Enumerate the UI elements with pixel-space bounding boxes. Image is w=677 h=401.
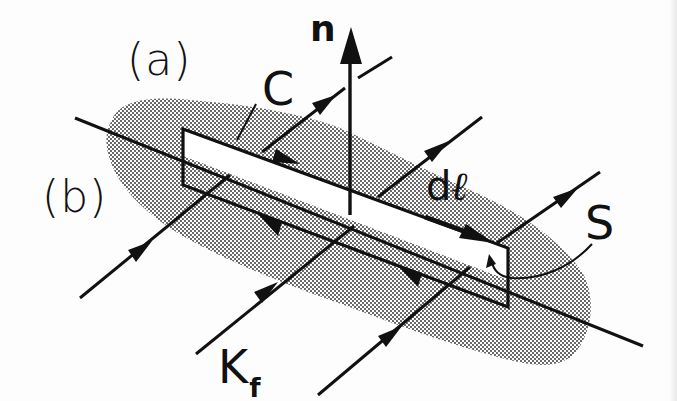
current-label-subscript: f (249, 373, 260, 401)
normal-arrowhead (340, 27, 362, 64)
current-line-3-arrow-lower (378, 326, 402, 347)
current-line-1-arrow-lower (128, 241, 152, 262)
normal-label: n (310, 11, 336, 47)
current-line-3-arrow-upper (553, 188, 578, 208)
current-line-2-arrow-lower (254, 282, 278, 303)
line-element-d: d (426, 163, 451, 209)
panel-a-label: (a) (127, 38, 191, 82)
page-edge-shadow (669, 0, 677, 401)
contour-label: C (262, 66, 294, 112)
line-element-ell: ℓ (451, 162, 468, 209)
line-element-label: dℓ (426, 166, 468, 206)
surface-label: S (585, 200, 614, 246)
current-line-1-tail (358, 57, 392, 78)
panel-b-label: (b) (42, 175, 107, 219)
current-label-K: K (218, 340, 248, 394)
current-label: Kf (218, 344, 259, 390)
diagram-canvas: (a) (b) n C dℓ S Kf (0, 0, 677, 401)
